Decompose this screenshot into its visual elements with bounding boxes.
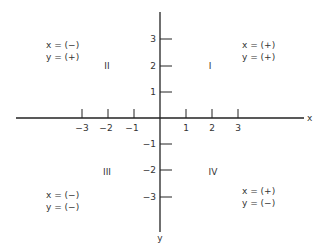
quadrant-iii-label: III [103, 167, 111, 177]
x-tick-label: −1 [125, 123, 138, 133]
y-tick-label: −1 [143, 139, 156, 149]
quadrant-iii-x-sign: x = (−) [46, 190, 79, 200]
quadrant-iii-y-sign: y = (−) [46, 202, 79, 212]
quadrant-ii-x-sign: x = (−) [46, 40, 79, 50]
x-tick-label: −2 [99, 123, 112, 133]
quadrant-i-y-sign: y = (+) [242, 52, 275, 62]
coordinate-plane: −3 −2 −1 1 2 3 3 2 1 −1 −2 −3 x y I II I… [0, 0, 318, 246]
x-tick-label: 3 [235, 123, 241, 133]
x-axis-label: x [307, 113, 313, 123]
y-tick-label: 2 [150, 61, 156, 71]
y-tick-label: −2 [143, 165, 156, 175]
y-tick-label: −3 [143, 192, 156, 202]
x-tick-label: 2 [209, 123, 215, 133]
quadrant-iv-y-sign: y = (−) [242, 198, 275, 208]
quadrant-ii-label: II [104, 61, 109, 71]
y-tick-label: 1 [150, 87, 156, 97]
y-axis-label: y [157, 233, 163, 243]
x-tick-label: 1 [183, 123, 189, 133]
quadrant-iv-x-sign: x = (+) [242, 186, 275, 196]
y-tick-label: 3 [150, 34, 156, 44]
quadrant-iv-label: IV [209, 167, 219, 177]
quadrant-i-label: I [209, 61, 212, 71]
x-tick-label: −3 [75, 123, 88, 133]
quadrant-ii-y-sign: y = (+) [46, 52, 79, 62]
quadrant-i-x-sign: x = (+) [242, 40, 275, 50]
